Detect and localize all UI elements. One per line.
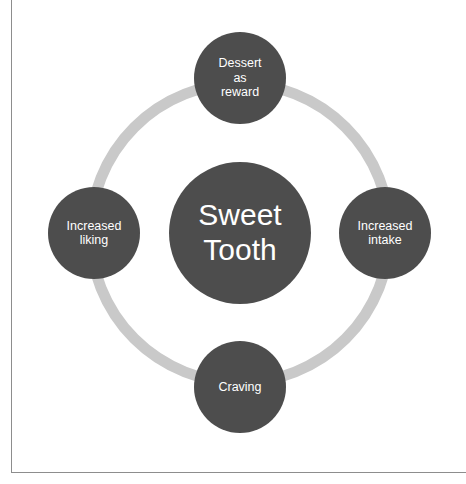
node-increased-liking: Increased liking bbox=[48, 187, 140, 279]
center-node-label: Sweet Tooth bbox=[194, 198, 285, 268]
node-craving: Craving bbox=[194, 341, 286, 433]
node-increased-intake: Increased intake bbox=[339, 187, 431, 279]
node-craving-label: Craving bbox=[214, 380, 265, 395]
center-node-sweet-tooth: Sweet Tooth bbox=[169, 162, 311, 304]
node-dessert-as-reward-label: Dessert as reward bbox=[214, 56, 265, 100]
node-dessert-as-reward: Dessert as reward bbox=[194, 32, 286, 124]
figure-frame: Sweet Tooth Dessert as reward Increased … bbox=[0, 0, 466, 484]
sweet-tooth-cycle-diagram: Sweet Tooth Dessert as reward Increased … bbox=[0, 0, 466, 484]
node-increased-intake-label: Increased intake bbox=[354, 219, 417, 248]
node-increased-liking-label: Increased liking bbox=[63, 219, 126, 248]
